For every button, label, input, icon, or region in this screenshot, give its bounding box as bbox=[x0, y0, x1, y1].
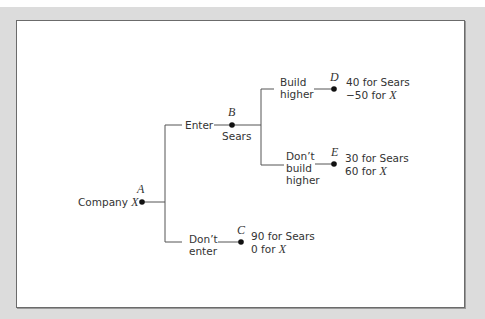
payoff-e: 30 for Sears 60 for X bbox=[345, 152, 409, 178]
payoff-e-x: 60 for X bbox=[345, 165, 409, 178]
payoff-c: 90 for Sears 0 for X bbox=[251, 230, 315, 256]
dontbuild-line3: higher bbox=[286, 174, 320, 186]
dont-build-higher-label: Don’t build higher bbox=[286, 150, 320, 186]
payoff-d-sears: 40 for Sears bbox=[346, 76, 410, 89]
payoff-e-x-value: 60 for bbox=[345, 165, 379, 177]
root-player-text: Company bbox=[78, 196, 128, 208]
payoff-c-x-value: 0 for bbox=[251, 243, 279, 255]
dontbuild-line2: build bbox=[286, 162, 320, 174]
node-d-label: D bbox=[330, 70, 339, 85]
node-b-dot bbox=[229, 122, 235, 128]
node-b-label: B bbox=[228, 105, 235, 120]
dontenter-line2: enter bbox=[189, 245, 218, 257]
root-player-var: X bbox=[131, 195, 138, 209]
game-tree-lines bbox=[0, 0, 485, 319]
payoff-d-x-value: −50 for bbox=[346, 89, 389, 101]
payoff-c-x-var: X bbox=[279, 242, 286, 256]
build-line1: Build bbox=[280, 76, 314, 88]
node-b-player: Sears bbox=[222, 130, 251, 142]
dont-enter-label: Don’t enter bbox=[189, 233, 218, 257]
node-e-dot bbox=[331, 161, 337, 167]
node-d-dot bbox=[331, 86, 337, 92]
build-higher-label: Build higher bbox=[280, 76, 314, 100]
build-line2: higher bbox=[280, 88, 314, 100]
enter-label: Enter bbox=[185, 119, 213, 131]
root-label: Company X bbox=[78, 196, 139, 208]
node-c-dot bbox=[238, 239, 244, 245]
node-a-label: A bbox=[137, 182, 144, 197]
dontenter-line1: Don’t bbox=[189, 233, 218, 245]
payoff-c-x: 0 for X bbox=[251, 243, 315, 256]
node-a-dot bbox=[139, 199, 145, 205]
node-e-label: E bbox=[331, 145, 338, 160]
payoff-e-sears: 30 for Sears bbox=[345, 152, 409, 165]
dontbuild-line1: Don’t bbox=[286, 150, 320, 162]
node-c-label: C bbox=[237, 223, 245, 238]
payoff-d-x-var: X bbox=[389, 88, 396, 102]
payoff-d: 40 for Sears −50 for X bbox=[346, 76, 410, 102]
payoff-e-x-var: X bbox=[379, 164, 386, 178]
payoff-d-x: −50 for X bbox=[346, 89, 410, 102]
